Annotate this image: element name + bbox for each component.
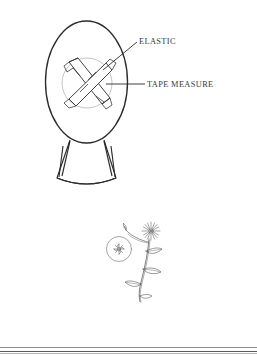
callout-label-elastic: ELASTIC xyxy=(139,38,176,46)
footer-rule-top xyxy=(0,347,257,348)
flared-skirt xyxy=(57,140,116,184)
leaf-lower xyxy=(125,281,141,287)
leaf-middle xyxy=(143,268,161,274)
botanical-illustration xyxy=(100,214,180,309)
footer-rule-hairline xyxy=(0,353,257,354)
page-canvas: ELASTIC TAPE MEASURE xyxy=(0,0,257,357)
garment-diagram xyxy=(0,0,257,200)
callout-label-tape-measure: TAPE MEASURE xyxy=(147,81,214,89)
star-flower-head xyxy=(142,222,160,240)
footer-rule-bottom xyxy=(0,351,257,352)
bud xyxy=(123,224,148,244)
detail-floret xyxy=(114,244,124,254)
leaf-base xyxy=(140,295,152,299)
leaf-upper xyxy=(146,248,162,254)
